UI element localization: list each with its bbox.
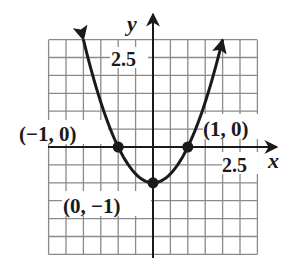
- parabola-graph: y x 2.5 2.5 (−1, 0) (1, 0) (0, −1): [0, 0, 301, 264]
- point-marker: [113, 142, 124, 153]
- point-label-right: (1, 0): [203, 117, 249, 141]
- x-tick-label: 2.5: [222, 154, 247, 176]
- point-marker: [182, 142, 193, 153]
- y-axis-label: y: [124, 11, 137, 36]
- point-label-left: (−1, 0): [19, 122, 76, 146]
- x-axis-label: x: [267, 148, 279, 173]
- y-tick-label: 2.5: [111, 48, 136, 70]
- point-marker: [148, 177, 159, 188]
- point-label-vertex: (0, −1): [63, 194, 120, 218]
